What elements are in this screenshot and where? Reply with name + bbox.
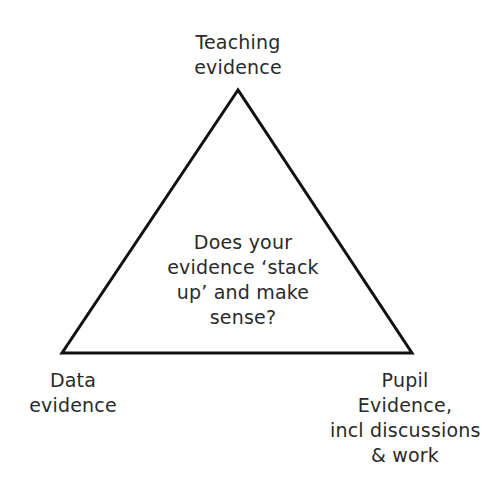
center-question-label: Does your evidence ‘stack up’ and make s… bbox=[163, 230, 323, 330]
label-line: & work bbox=[330, 443, 480, 468]
label-line: Teaching bbox=[168, 30, 308, 55]
label-line: up’ and make bbox=[163, 280, 323, 305]
pupil-evidence-label: Pupil Evidence, incl discussions & work bbox=[330, 368, 480, 468]
label-line: evidence bbox=[18, 393, 128, 418]
label-line: sense? bbox=[163, 305, 323, 330]
label-line: Data bbox=[18, 368, 128, 393]
label-line: Evidence, bbox=[330, 393, 480, 418]
label-line: evidence ‘stack bbox=[163, 255, 323, 280]
teaching-evidence-label: Teaching evidence bbox=[168, 30, 308, 80]
data-evidence-label: Data evidence bbox=[18, 368, 128, 418]
label-line: evidence bbox=[168, 55, 308, 80]
label-line: incl discussions bbox=[330, 418, 480, 443]
label-line: Pupil bbox=[330, 368, 480, 393]
label-line: Does your bbox=[163, 230, 323, 255]
